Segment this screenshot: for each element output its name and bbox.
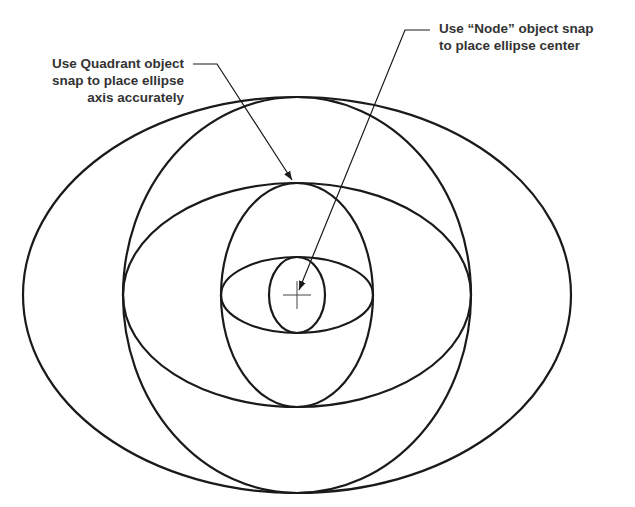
callout-node-line-2: to place ellipse center xyxy=(439,37,594,54)
callout-quadrant-line-1: Use Quadrant object xyxy=(52,55,184,72)
callout-quadrant-snap: Use Quadrant object snap to place ellips… xyxy=(52,55,184,106)
callout-node-line-1: Use “Node” object snap xyxy=(439,20,594,37)
leader-arrow-node xyxy=(299,30,430,290)
leader-arrow-quadrant xyxy=(193,64,292,180)
leader-lines xyxy=(193,30,430,290)
callout-quadrant-line-3: axis accurately xyxy=(52,89,184,106)
callout-node-snap: Use “Node” object snap to place ellipse … xyxy=(439,20,594,54)
center-node-cross-icon xyxy=(283,281,311,309)
callout-quadrant-line-2: snap to place ellipse xyxy=(52,72,184,89)
